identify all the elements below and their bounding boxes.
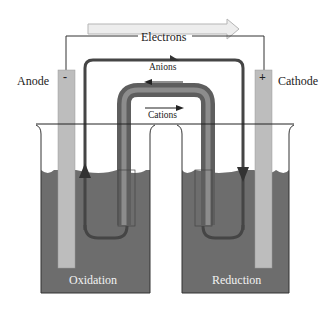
oxidation-label: Oxidation — [69, 273, 117, 288]
cathode-sign: + — [259, 70, 266, 85]
anode-electrode — [58, 70, 75, 268]
anode-label: Anode — [17, 74, 49, 89]
cations-label: Cations — [148, 110, 177, 120]
electrons-label: Electrons — [141, 30, 186, 45]
loop-up-arrow-icon — [79, 163, 91, 178]
galvanic-cell-diagram — [0, 0, 333, 309]
reduction-label: Reduction — [212, 273, 261, 288]
anions-label: Anions — [149, 62, 176, 72]
cathode-electrode — [255, 70, 272, 268]
cathode-label: Cathode — [278, 74, 318, 89]
anode-sign: - — [63, 70, 67, 85]
